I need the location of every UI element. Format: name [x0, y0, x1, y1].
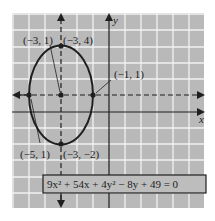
equation-text: 9x² + 54x + 4y² − 8y + 49 = 0	[47, 178, 179, 190]
label-center: (−3, 1)	[23, 34, 53, 47]
y-axis-label: y	[112, 14, 118, 26]
point-right-covertex	[90, 92, 95, 97]
x-axis-label: x	[198, 113, 204, 125]
ellipse-graph: x y (−3, 1) (−3, 4) (−1, 1) (−5, 1) (−3,…	[0, 0, 215, 221]
label-bottom-vertex: (−3, −2)	[63, 148, 100, 161]
label-top-vertex: (−3, 4)	[63, 34, 93, 47]
point-center	[58, 92, 63, 97]
point-left-covertex	[26, 92, 31, 97]
label-left-covertex: (−5, 1)	[20, 148, 50, 161]
label-right-covertex: (−1, 1)	[114, 68, 144, 81]
point-bottom-vertex	[58, 141, 63, 146]
